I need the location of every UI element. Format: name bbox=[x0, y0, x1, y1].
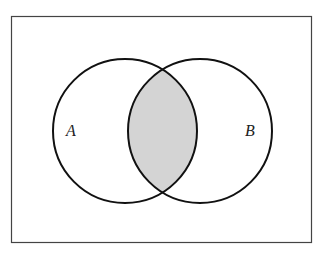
set-a-label: A bbox=[65, 122, 76, 139]
set-b-label: B bbox=[245, 122, 255, 139]
venn-diagram: A B bbox=[0, 0, 327, 262]
